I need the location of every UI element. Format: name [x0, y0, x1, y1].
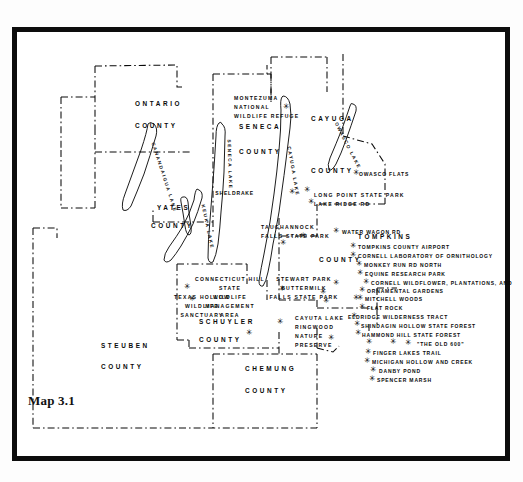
- map-frame: ONTARIOCOUNTYSENECACOUNTYCAYUGACOUNTYYAT…: [12, 27, 510, 461]
- county-label-ontario-word2: COUNTY: [135, 122, 178, 129]
- site-label-sheldrake: SHELDRAKE: [215, 190, 254, 197]
- place-label-texas-hollow: WILDLIFE: [185, 303, 219, 310]
- map-caption: Map 3.1: [28, 393, 75, 409]
- site-marker-icon: ✳: [189, 295, 196, 303]
- site-marker-icon: ✳: [359, 303, 366, 311]
- place-label-taughannock: TAUGHANNOCK: [261, 224, 315, 231]
- montezuma-refuge-line-1: MONTEZUMA: [234, 95, 278, 102]
- place-label-taughannock: FALLS STATE PARK: [261, 233, 330, 240]
- site-marker-icon: ✳: [353, 169, 360, 177]
- county-label-yates-word2: COUNTY: [151, 222, 194, 229]
- montezuma-refuge-line-3: WILDLIFE REFUGE: [234, 113, 299, 120]
- site-marker-icon: ✳: [323, 297, 330, 305]
- map-canvas: ONTARIOCOUNTYSENECACOUNTYCAYUGACOUNTYYAT…: [17, 32, 505, 456]
- site-label-cornell-laboratory-of-ornithology: CORNELL LABORATORY OF ORNITHOLOGY: [358, 253, 493, 260]
- site-marker-icon: ✳: [277, 318, 284, 326]
- site-marker-icon: ✳: [246, 329, 253, 337]
- site-marker-icon: ✳: [328, 334, 335, 342]
- place-label-stewart-park: STEWART PARK: [276, 276, 331, 283]
- site-label-mitchell-woods: MITCHELL WOODS: [365, 296, 423, 303]
- site-label-cornell-wildflower-plantations-and: CORNELL WILDFLOWER, PLANTATIONS, AND: [371, 280, 513, 287]
- site-marker-icon: ✳: [283, 103, 290, 111]
- county-label-steuben-word2: COUNTY: [101, 363, 144, 370]
- site-marker-icon: ✳: [370, 366, 377, 374]
- place-label-texas-hollow: SANCTUARY: [180, 312, 223, 319]
- site-marker-icon: ✳: [350, 242, 357, 250]
- site-marker-icon: ✳: [390, 338, 397, 346]
- site-marker-icon: ✳: [354, 320, 361, 328]
- site-label-flat-rock: FLAT ROCK: [367, 305, 403, 312]
- site-marker-icon: ✳: [350, 251, 357, 259]
- site-label-owasco-flats: OWASCO FLATS: [359, 171, 409, 178]
- county-label-chemung-word2: COUNTY: [245, 387, 288, 394]
- county-boundaries: [33, 54, 397, 428]
- site-marker-icon: ✳: [369, 375, 376, 383]
- site-label--the-old-600-: "THE OLD 600": [417, 341, 464, 348]
- county-label-seneca: SENECA: [239, 123, 281, 130]
- site-marker-icon: ✳: [364, 357, 371, 365]
- site-marker-icon: ✳: [289, 188, 296, 196]
- site-label-water-wagon-rd: WATER WAGON RD: [342, 229, 401, 236]
- site-marker-icon: ✳: [365, 348, 372, 356]
- site-label-finger-lakes-trail: FINGER LAKES TRAIL: [373, 350, 442, 357]
- site-marker-icon: ✳: [366, 338, 373, 346]
- site-marker-icon: ✳: [304, 186, 311, 194]
- site-marker-icon: ✳: [405, 339, 412, 347]
- site-label-spencer-marsh: SPENCER MARSH: [377, 377, 432, 384]
- place-label-connecticut-hill: STATE: [219, 285, 241, 292]
- county-label-chemung: CHEMUNG: [245, 365, 296, 372]
- site-marker-icon: ✳: [184, 283, 191, 291]
- site-marker-icon: ✳: [356, 260, 363, 268]
- site-label-tompkins-county-airport: TOMPKINS COUNTY AIRPORT: [358, 244, 450, 251]
- county-label-cayuga: CAYUGA: [311, 115, 354, 122]
- site-label-monkey-run-rd-north: MONKEY RUN RD NORTH: [364, 262, 442, 269]
- county-label-seneca-word2: COUNTY: [239, 148, 282, 155]
- montezuma-refuge-line-2: NATIONAL: [234, 104, 270, 111]
- site-label-eldridge-wilderness-tract: ELDRIDGE WILDERNESS TRACT: [348, 314, 448, 321]
- place-label-cayuta-lake: CAYUTA LAKE: [295, 315, 344, 322]
- site-label-equine-research-park: EQUINE RESEARCH PARK: [365, 271, 446, 278]
- county-label-schuyler: SCHUYLER: [199, 318, 255, 325]
- site-marker-icon: ✳: [320, 288, 327, 296]
- county-label-steuben: STEUBEN: [101, 342, 150, 349]
- site-label-danby-pond: DANBY POND: [379, 368, 421, 375]
- site-marker-icon: ✳: [300, 232, 307, 240]
- county-label-ontario: ONTARIO: [135, 100, 182, 107]
- map-page: ONTARIOCOUNTYSENECACOUNTYCAYUGACOUNTYYAT…: [0, 0, 523, 482]
- place-label-cayuta-lake: PRESERVE: [295, 342, 333, 349]
- site-label-michigan-hollow-and-creek: MICHIGAN HOLLOW AND CREEK: [372, 359, 473, 366]
- county-label-cayuga-word2: COUNTY: [311, 167, 354, 174]
- site-marker-icon: ✳: [279, 285, 286, 293]
- place-label-connecticut-hill: CONNECTICUT HILL: [195, 276, 265, 283]
- site-marker-icon: ✳: [308, 198, 315, 206]
- place-label-cayuta-lake: RINGWOOD: [295, 324, 334, 331]
- place-label-long-point-state-park: LONG POINT STATE PARK: [314, 192, 405, 199]
- place-label-cayuta-lake: NATURE: [295, 333, 323, 340]
- site-label-ornamental-gardens: ORNAMENTAL GARDENS: [367, 288, 444, 295]
- county-label-schuyler-word2: COUNTY: [199, 336, 242, 343]
- site-marker-icon: ✳: [280, 239, 287, 247]
- site-marker-icon: ✳: [355, 329, 362, 337]
- site-label-shindagin-hollow-state-forest: SHINDAGIN HOLLOW STATE FOREST: [361, 323, 476, 330]
- site-marker-icon: ✳: [353, 294, 360, 302]
- site-marker-icon: ✳: [333, 279, 340, 287]
- site-marker-icon: ✳: [333, 227, 340, 235]
- place-label-long-point-state-park: LAKE RIDGE RD: [314, 201, 370, 208]
- place-label-texas-hollow: TEXAS HOLLOW: [174, 294, 230, 301]
- site-marker-icon: ✳: [357, 269, 364, 277]
